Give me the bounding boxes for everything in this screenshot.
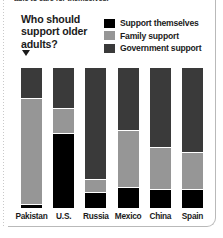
bar-segment — [150, 148, 171, 190]
chart-x-axis-labels: PakistanU.S.RussiaMexicoChinaSpain — [21, 211, 203, 223]
bar-column-russia — [85, 68, 106, 208]
chart-plot-area — [21, 68, 203, 208]
bar-segment — [53, 134, 74, 208]
bar-segment — [53, 109, 74, 134]
chart-legend: Support themselves Family support Govern… — [104, 17, 208, 55]
legend-label-self: Support themselves — [120, 18, 199, 28]
legend-item-family: Family support — [104, 30, 208, 43]
clipped-headline-text: able to care for themselves. — [14, 0, 109, 3]
bar-column-mexico — [118, 68, 139, 208]
bar-column-china — [150, 68, 171, 208]
legend-label-family: Family support — [120, 31, 179, 41]
stacked-bar — [85, 68, 106, 208]
legend-item-government: Government support — [104, 42, 208, 55]
stacked-bar — [21, 68, 42, 208]
stacked-bar — [118, 68, 139, 208]
stacked-bar — [53, 68, 74, 208]
bar-segment — [182, 190, 203, 208]
down-triangle-icon — [22, 50, 30, 56]
clipped-headline: able to care for themselves. — [14, 0, 200, 5]
bar-column-spain — [182, 68, 203, 208]
bar-segment — [21, 68, 42, 99]
bar-column-pakistan — [21, 68, 42, 208]
bar-segment — [150, 68, 171, 148]
legend-item-self: Support themselves — [104, 17, 208, 30]
bar-segment — [118, 68, 139, 131]
bar-segment — [182, 68, 203, 153]
legend-label-government: Government support — [120, 43, 201, 53]
legend-swatch-icon-family — [104, 31, 115, 40]
chart-screenshot: able to care for themselves. Who should … — [0, 0, 223, 238]
bar-segment — [21, 99, 42, 205]
bar-segment — [182, 153, 203, 189]
bar-column-u-s — [53, 68, 74, 208]
stacked-bar — [182, 68, 203, 208]
bar-segment — [118, 131, 139, 188]
bar-segment — [118, 188, 139, 208]
bar-segment — [150, 190, 171, 208]
bar-segment — [85, 68, 106, 180]
bar-segment — [21, 205, 42, 208]
legend-swatch-icon-self — [104, 19, 115, 28]
page-gutter-rule — [3, 0, 4, 228]
x-axis-label: Spain — [172, 211, 213, 221]
bar-segment — [85, 193, 106, 208]
bar-segment — [53, 68, 74, 109]
stacked-bar — [150, 68, 171, 208]
page-title: Who should support older adults? — [21, 13, 99, 50]
legend-swatch-icon-government — [104, 44, 115, 53]
bar-segment — [85, 180, 106, 193]
